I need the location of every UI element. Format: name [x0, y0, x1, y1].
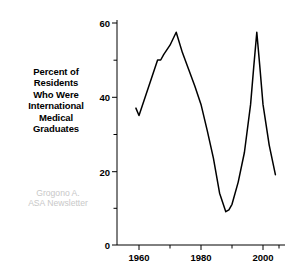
y-minor-ticks: [114, 60, 118, 208]
y-tick-label-0: 0: [96, 240, 110, 251]
x-tick-label-1960: 1960: [119, 252, 159, 263]
x-tick-label-2000: 2000: [243, 252, 283, 263]
plot-area: [0, 0, 293, 274]
data-series-line: [136, 32, 276, 211]
y-tick-label-20: 20: [89, 167, 110, 178]
x-tick-label-1980: 1980: [181, 252, 221, 263]
chart-figure: Percent of Residents Who Were Internatio…: [0, 0, 293, 274]
x-major-ticks: [139, 245, 263, 250]
y-tick-label-40: 40: [89, 92, 110, 103]
y-tick-label-60: 60: [89, 18, 110, 29]
